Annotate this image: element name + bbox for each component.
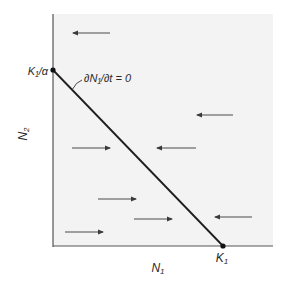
x-intercept-label: K1 xyxy=(216,251,228,266)
y-intercept-label: K₁/α xyxy=(28,65,49,77)
plot-area xyxy=(53,14,273,246)
x-axis-label: N1 xyxy=(151,261,164,276)
phase-plane-diagram: K₁/α ∂N₁/∂t = 0 N2 N1 K1 xyxy=(0,0,288,283)
x-intercept-point xyxy=(220,243,225,248)
svg-text:N2: N2 xyxy=(16,127,31,141)
y-intercept-point xyxy=(50,67,55,72)
isocline-label: ∂N₁/∂t = 0 xyxy=(84,72,132,84)
y-axis-label: N2 xyxy=(16,127,31,141)
